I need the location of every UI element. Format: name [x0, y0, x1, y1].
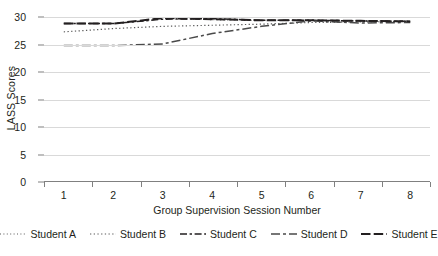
- x-tick-mark: [382, 182, 383, 187]
- line-chart: LASS Scores 051015202530 12345678 Group …: [0, 0, 438, 256]
- x-tick-mark: [92, 182, 93, 187]
- legend-swatch-student-b: [90, 229, 116, 239]
- legend-swatch-student-e: [361, 229, 387, 239]
- y-tick-label: 10: [0, 122, 26, 133]
- legend-item-student-c[interactable]: Student C: [180, 228, 257, 240]
- x-tick-label: 7: [346, 189, 376, 201]
- y-tick-label: 20: [0, 67, 26, 78]
- legend-item-student-a[interactable]: Student A: [0, 228, 76, 240]
- legend-swatch-student-c: [180, 229, 206, 239]
- x-tick-mark: [44, 182, 45, 187]
- gridline: [44, 127, 430, 128]
- x-tick-mark: [285, 182, 286, 187]
- x-tick-label: 8: [395, 189, 425, 201]
- gridline: [44, 72, 430, 73]
- legend-label: Student C: [210, 228, 257, 240]
- legend-swatch-student-d: [271, 229, 297, 239]
- gridline: [44, 155, 430, 156]
- x-axis-title-label: Group Supervision Session Number: [153, 204, 321, 216]
- legend-label: Student A: [30, 228, 76, 240]
- legend-swatch-student-a: [0, 229, 26, 239]
- x-tick-mark: [430, 182, 431, 187]
- y-tick-label: 0: [0, 177, 26, 188]
- legend-label: Student D: [301, 228, 348, 240]
- chart-legend: Student AStudent BStudent CStudent DStud…: [0, 228, 438, 240]
- legend-item-student-e[interactable]: Student E: [361, 228, 437, 240]
- y-tick-label: 25: [0, 39, 26, 50]
- gridline: [44, 17, 430, 18]
- x-tick-label: 1: [49, 189, 79, 201]
- gridline: [44, 45, 430, 46]
- x-tick-mark: [334, 182, 335, 187]
- y-tick-label: 30: [0, 12, 26, 23]
- x-axis-title: Group Supervision Session Number: [44, 204, 430, 216]
- legend-item-student-b[interactable]: Student B: [90, 228, 166, 240]
- plot-area: [44, 17, 430, 182]
- y-tick-label: 5: [0, 149, 26, 160]
- x-tick-label: 4: [197, 189, 227, 201]
- x-tick-mark: [237, 182, 238, 187]
- x-tick-label: 2: [98, 189, 128, 201]
- x-tick-label: 3: [148, 189, 178, 201]
- x-tick-mark: [189, 182, 190, 187]
- legend-item-student-d[interactable]: Student D: [271, 228, 348, 240]
- legend-label: Student B: [120, 228, 166, 240]
- x-tick-label: 6: [296, 189, 326, 201]
- x-tick-label: 5: [247, 189, 277, 201]
- x-tick-mark: [141, 182, 142, 187]
- y-tick-label: 15: [0, 94, 26, 105]
- series-line-student-d: [64, 21, 410, 46]
- gridline: [44, 100, 430, 101]
- legend-label: Student E: [391, 228, 437, 240]
